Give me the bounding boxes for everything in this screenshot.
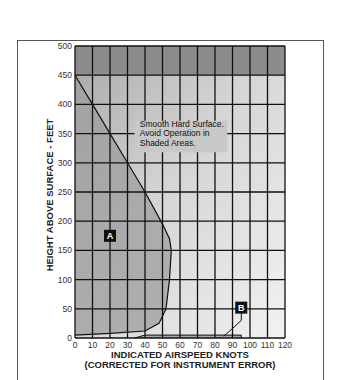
- y-tick-label: 150: [58, 245, 72, 255]
- x-tick-label: 110: [261, 340, 275, 350]
- note-text: Avoid Operation in: [140, 128, 210, 138]
- y-tick-label: 250: [58, 187, 72, 197]
- y-tick-label: 100: [58, 275, 72, 285]
- x-tick-label: 120: [278, 340, 292, 350]
- x-tick-label: 0: [73, 340, 78, 350]
- region-label-b: B: [238, 303, 245, 313]
- note-text: Smooth Hard Surface.: [140, 119, 224, 129]
- y-tick-label: 200: [58, 216, 72, 226]
- y-tick-label: 400: [58, 99, 72, 109]
- y-tick-label: 0: [67, 333, 72, 343]
- note-text: Shaded Areas.: [140, 138, 196, 148]
- y-tick-label: 500: [58, 41, 72, 51]
- region-label-a: A: [107, 231, 114, 241]
- y-tick-label: 300: [58, 158, 72, 168]
- y-tick-label: 50: [63, 304, 73, 314]
- x-axis-sublabel: (CORRECTED FOR INSTRUMENT ERROR): [75, 360, 285, 370]
- y-tick-label: 350: [58, 129, 72, 139]
- y-tick-label: 450: [58, 70, 72, 80]
- x-tick-label: 10: [88, 340, 98, 350]
